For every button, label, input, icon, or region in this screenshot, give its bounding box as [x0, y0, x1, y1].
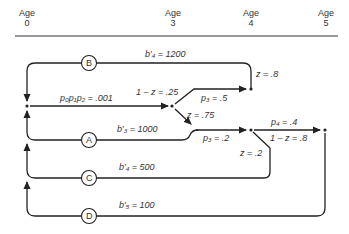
benefit-d: b′₅ = 100 [119, 200, 155, 210]
label-1-minus-z-8: 1 – z = .8 [270, 133, 307, 143]
label-z-2: z = .2 [240, 148, 262, 158]
loop-d-path [27, 133, 325, 216]
loop-a-letter: A [86, 135, 92, 145]
node-age3 [170, 104, 173, 107]
label-p0p1p2: p₀p₁p₂ = .001 [60, 93, 113, 103]
label-p3-5: p₃ = .5 [201, 93, 227, 103]
label-p3-2: p₃ = .2 [203, 133, 229, 143]
node-age4-upper [249, 87, 252, 90]
loop-a-path [27, 111, 198, 140]
label-1-minus-z-25: 1 – z = .25 [136, 87, 178, 97]
label-z-8: z = .8 [256, 69, 278, 79]
benefit-a: b′₃ = 1000 [117, 124, 158, 134]
label-z-75: z = .75 [187, 110, 214, 120]
node-age4-lower [249, 128, 252, 131]
benefit-c: b′₄ = 500 [119, 162, 155, 172]
node-age0 [25, 104, 28, 107]
loop-b-letter: B [86, 58, 92, 68]
node-age5 [323, 128, 326, 131]
loop-c-letter: C [86, 173, 93, 183]
benefit-b: b′₄ = 1200 [145, 49, 186, 59]
label-p4-4: p₄ = .4 [271, 117, 297, 127]
loop-d-letter: D [86, 211, 93, 221]
